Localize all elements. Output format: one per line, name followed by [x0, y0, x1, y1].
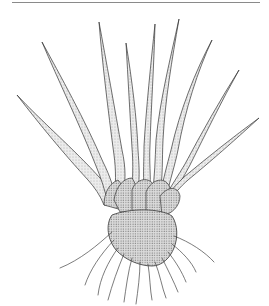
plant-illustration — [0, 0, 269, 306]
corm — [108, 210, 177, 266]
leaf — [152, 19, 179, 195]
leaf — [126, 43, 139, 190]
leaves — [17, 19, 259, 205]
leaf — [160, 40, 212, 198]
leaf — [144, 24, 155, 190]
